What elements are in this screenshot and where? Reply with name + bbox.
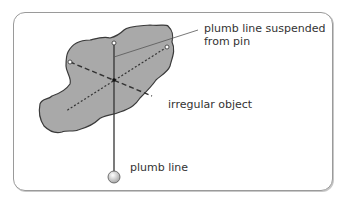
pin-right: [165, 45, 169, 49]
plumb-bob-icon: [108, 171, 120, 183]
label-plumb-line-suspended: plumb line suspended from pin: [204, 22, 325, 48]
pin-left: [68, 60, 72, 64]
label-line-2: from pin: [204, 35, 325, 48]
label-irregular-object: irregular object: [168, 98, 252, 111]
centre-of-gravity-dot: [112, 78, 116, 82]
pin-top: [112, 41, 116, 45]
label-plumb-line: plumb line: [130, 161, 188, 174]
irregular-object-shape: [39, 25, 173, 133]
label-line-1: plumb line suspended: [204, 22, 325, 35]
